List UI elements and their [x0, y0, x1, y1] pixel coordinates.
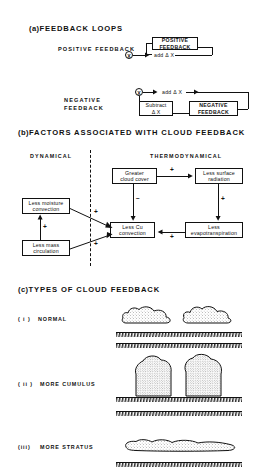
x-node-positive: X — [125, 51, 133, 59]
edge-cover-to-cu-arrow — [130, 216, 137, 224]
ground-rule-stratus — [116, 462, 242, 463]
node-less-evapotranspiration: Less evapotranspiration — [185, 222, 243, 238]
positive-feedback-box: POSITIVE FEEDBACK — [152, 37, 198, 50]
node-greater-cloud-cover: Greater cloud cover — [112, 168, 157, 184]
node-less-evapotranspiration-line2: evapotranspiration — [191, 230, 237, 236]
section-c-title: TYPES OF CLOUD FEEDBACK — [28, 285, 160, 294]
neg-arrow-1 — [153, 89, 161, 96]
case-iii-label: MORE STRATUS — [40, 444, 94, 450]
edge-radiation-to-evap-arrow — [215, 216, 222, 224]
sign-moisture-to-cu: + — [94, 209, 98, 216]
negative-feedback-label-l2: FEEDBACK — [64, 105, 104, 111]
edge-cover-to-cu — [133, 184, 134, 217]
sign-evap-to-cu: + — [170, 234, 174, 241]
section-b-paren: (b) — [18, 128, 29, 137]
ground-line-stratus — [116, 463, 242, 467]
node-less-mass-circulation: Less mass circulation — [22, 240, 70, 256]
sign-cover-to-radiation: + — [170, 167, 174, 174]
section-a-heading: (a)FEEDBACK LOOPS — [29, 24, 123, 33]
node-less-surface-radiation: Less surface radiation — [195, 168, 243, 184]
negative-feedback-box-label: NEGATIVE FEEDBACK — [192, 102, 235, 115]
edge-cover-to-radiation-arrow — [188, 173, 196, 180]
figure-canvas: (a)FEEDBACK LOOPS POSITIVE FEEDBACK POSI… — [0, 0, 264, 476]
section-c-paren: (c) — [18, 285, 28, 294]
sign-mass-to-cu: + — [94, 241, 98, 248]
pos-arrow-1 — [145, 52, 153, 59]
sign-mass-to-moisture: + — [43, 224, 47, 231]
cloud-normal-pair — [118, 303, 243, 329]
edge-mass-to-moisture — [40, 218, 41, 240]
subtract-box-line2: Δ X — [146, 109, 167, 115]
node-less-cu-convection: Less Cu convection — [110, 222, 155, 238]
ground-rule-normal — [116, 332, 242, 333]
node-less-moisture-convection-line2: convection — [29, 206, 64, 212]
node-less-mass-circulation-line2: circulation — [33, 248, 60, 254]
column-label-thermodynamical: THERMODYNAMICAL — [150, 153, 222, 159]
x-node-negative: X — [135, 88, 143, 96]
neg-right-vert — [248, 92, 249, 109]
node-less-surface-radiation-line2: radiation — [203, 176, 235, 182]
ground-line-normal — [116, 333, 242, 337]
ground-rule-cumulus — [116, 397, 242, 398]
edge-evap-to-cu-arrow — [155, 229, 163, 236]
pos-add-delta-x-label: add Δ X — [153, 52, 175, 58]
sign-radiation-to-evap: + — [221, 196, 225, 203]
section-b-title: FACTORS ASSOCIATED WITH CLOUD FEEDBACK — [29, 128, 245, 137]
cloud-cumulus-pair — [126, 352, 241, 398]
case-i-numeral: ( i ) — [18, 316, 31, 322]
neg-add-delta-x-label: add Δ X — [161, 89, 183, 95]
positive-feedback-box-label: POSITIVE FEEDBACK — [155, 37, 195, 50]
edge-mass-to-cu — [68, 233, 114, 251]
top-line-cumulus — [116, 344, 242, 348]
section-c-heading: (c)TYPES OF CLOUD FEEDBACK — [18, 285, 160, 294]
top-line-stratus — [116, 412, 242, 416]
section-b-heading: (b)FACTORS ASSOCIATED WITH CLOUD FEEDBAC… — [18, 128, 245, 137]
edge-mass-to-moisture-arrow — [37, 212, 44, 220]
neg-right-into-box — [238, 109, 248, 110]
subtract-box-line1: Subtract — [146, 102, 167, 108]
sign-cover-to-cu: − — [136, 196, 140, 203]
section-a-paren: (a) — [29, 24, 39, 33]
case-ii-label: MORE CUMULUS — [40, 381, 95, 387]
case-iii-numeral: (iii) — [18, 444, 31, 450]
edge-radiation-to-evap — [218, 184, 219, 217]
pos-loop-box-out — [198, 47, 212, 48]
ground-line-cumulus — [116, 398, 242, 402]
section-a-title: FEEDBACK LOOPS — [39, 24, 122, 33]
edge-moisture-to-cu — [68, 207, 114, 229]
top-rule-cumulus — [116, 343, 242, 344]
node-less-moisture-convection: Less moisture convection — [22, 198, 70, 214]
pos-loop-right-vert — [212, 47, 213, 55]
case-ii-numeral: ( ii ) — [18, 381, 33, 387]
case-i-label: NORMAL — [38, 316, 67, 322]
neg-arrow-2 — [194, 89, 202, 96]
node-less-cu-convection-line2: convection — [119, 230, 146, 236]
subtract-delta-x-box: Subtract Δ X — [139, 101, 173, 116]
negative-feedback-label-l1: NEGATIVE — [64, 97, 101, 103]
positive-feedback-label: POSITIVE FEEDBACK — [58, 46, 135, 52]
column-label-dynamical: DYNAMICAL — [30, 153, 72, 159]
top-rule-stratus — [116, 411, 242, 412]
neg-box-link — [173, 113, 189, 114]
cloud-stratus-sheet — [122, 435, 240, 453]
node-greater-cloud-cover-line2: cloud cover — [120, 176, 149, 182]
edge-cover-to-radiation — [157, 176, 189, 177]
negative-feedback-box: NEGATIVE FEEDBACK — [189, 101, 238, 116]
pos-loop-box-in — [146, 43, 152, 44]
